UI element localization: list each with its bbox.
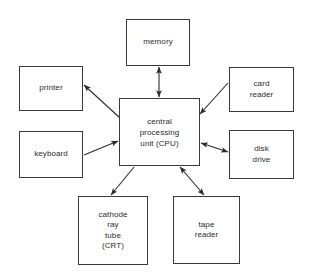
node-cathode-ray-tube-label: cathode ray tube (CRT) (96, 210, 129, 252)
node-keyboard[interactable]: keyboard (19, 131, 83, 178)
node-printer[interactable]: printer (19, 66, 83, 111)
connector-cpu-tape-reader (180, 167, 204, 195)
node-tape-reader-label: tape reader (193, 220, 221, 241)
node-cpu-label: central processing unit (CPU) (138, 116, 182, 149)
node-memory[interactable]: memory (126, 19, 190, 66)
node-printer-label: printer (37, 83, 64, 94)
connector-cpu-disk-drive (201, 143, 228, 152)
node-card-reader[interactable]: card reader (229, 67, 294, 112)
node-keyboard-label: keyboard (32, 149, 70, 160)
node-tape-reader[interactable]: tape reader (173, 196, 240, 264)
node-cathode-ray-tube[interactable]: cathode ray tube (CRT) (78, 196, 148, 265)
connector-cpu-crt (111, 167, 134, 195)
connector-card-reader-cpu (200, 83, 228, 114)
connector-keyboard-cpu (84, 141, 118, 155)
connector-cpu-printer (84, 85, 120, 118)
node-disk-drive[interactable]: disk drive (229, 130, 294, 179)
node-card-reader-label: card reader (248, 79, 276, 100)
node-cpu[interactable]: central processing unit (CPU) (119, 98, 200, 166)
node-disk-drive-label: disk drive (251, 144, 273, 165)
node-memory-label: memory (141, 37, 175, 48)
block-diagram: memory printer card reader keyboard cent… (0, 0, 314, 274)
